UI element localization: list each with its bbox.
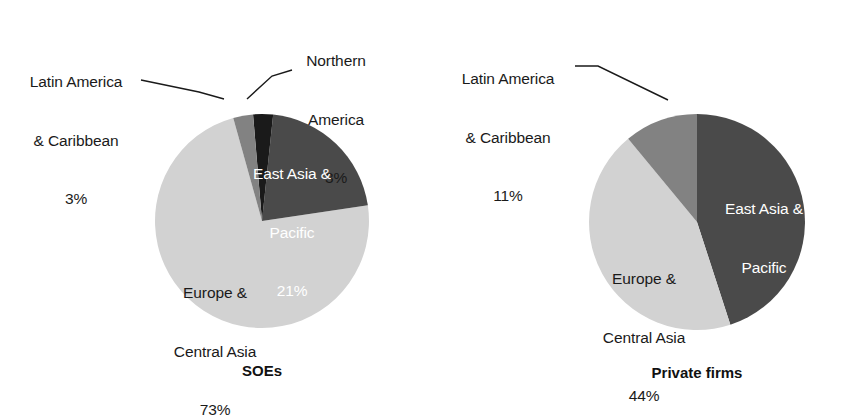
slice-label-name-line1: Europe & bbox=[140, 283, 290, 303]
chart-panel-soes: Latin America & Caribbean 3% Northern Am… bbox=[0, 0, 423, 408]
leader-line-latin-america bbox=[575, 66, 668, 100]
slice-label-east-asia-pacific-private: East Asia & Pacific 45% bbox=[704, 160, 824, 375]
callout-name-line1: Latin America bbox=[441, 69, 575, 89]
slice-label-name-line2: Pacific bbox=[704, 258, 824, 278]
slice-label-name-line2: Pacific bbox=[232, 223, 352, 243]
callout-name-line2: & Caribbean bbox=[441, 128, 575, 148]
callout-name-line1: Northern bbox=[283, 51, 389, 71]
callout-percent: 11% bbox=[441, 186, 575, 206]
callout-latin-america-caribbean-private: Latin America & Caribbean 11% bbox=[441, 30, 575, 245]
chart-caption-soes: SOEs bbox=[182, 362, 342, 379]
callout-name-line2: & Caribbean bbox=[8, 131, 144, 151]
leader-line-latin-america bbox=[141, 80, 224, 99]
slice-label-name-line1: East Asia & bbox=[232, 164, 352, 184]
callout-percent: 3% bbox=[8, 189, 144, 209]
slice-label-name-line1: East Asia & bbox=[704, 199, 824, 219]
chart-caption-private-firms: Private firms bbox=[617, 364, 777, 381]
slice-label-percent: 73% bbox=[140, 400, 290, 419]
slice-label-name-line1: Europe & bbox=[574, 269, 714, 289]
slice-label-percent: 44% bbox=[574, 386, 714, 406]
slice-label-percent: 45% bbox=[704, 316, 824, 336]
slice-label-europe-central-asia-private: Europe & Central Asia 44% bbox=[574, 230, 714, 419]
callout-latin-america-caribbean-soes: Latin America & Caribbean 3% bbox=[8, 33, 144, 248]
chart-panel-private-firms: Latin America & Caribbean 11% East Asia … bbox=[423, 0, 846, 408]
slice-label-name-line2: Central Asia bbox=[574, 328, 714, 348]
callout-name-line1: Latin America bbox=[8, 72, 144, 92]
slice-label-name-line2: Central Asia bbox=[140, 342, 290, 362]
slice-label-europe-central-asia-soes: Europe & Central Asia 73% bbox=[140, 244, 290, 419]
